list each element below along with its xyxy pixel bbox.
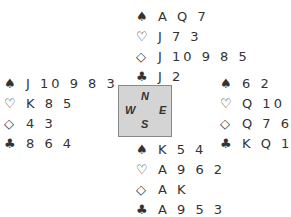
west-spades: ♠J 10 9 8 3 (4, 74, 118, 94)
spade-icon: ♠ (220, 74, 242, 94)
south-clubs: ♣A 9 5 3 (136, 200, 225, 217)
compass-north: N (141, 90, 149, 102)
south-spades: ♠K 5 4 (136, 140, 225, 160)
south-hand: ♠K 5 4 ♡A 9 6 2 ◇A K ♣A 9 5 3 (136, 140, 225, 217)
heart-icon: ♡ (4, 94, 26, 114)
compass-west: W (125, 104, 135, 116)
compass-box: N W E S (118, 85, 172, 137)
north-hearts: ♡J 7 3 (136, 27, 250, 47)
diamond-icon: ◇ (4, 114, 26, 134)
west-clubs: ♣8 6 4 (4, 134, 118, 154)
spade-icon: ♠ (136, 7, 158, 27)
spade-icon: ♠ (4, 74, 26, 94)
compass-east: E (159, 104, 166, 116)
north-diamonds: ◇J 10 9 8 5 (136, 47, 250, 67)
west-hearts: ♡K 8 5 (4, 94, 118, 114)
diamond-icon: ◇ (220, 114, 242, 134)
east-hand: ♠6 2 ♡Q 10 4 ◇Q 7 6 2 ♣K Q 10 7 (220, 74, 291, 154)
east-clubs: ♣K Q 10 7 (220, 134, 291, 154)
west-diamonds: ◇4 3 (4, 114, 118, 134)
east-spades: ♠6 2 (220, 74, 291, 94)
west-hand: ♠J 10 9 8 3 ♡K 8 5 ◇4 3 ♣8 6 4 (4, 74, 118, 154)
heart-icon: ♡ (136, 27, 158, 47)
diamond-icon: ◇ (136, 47, 158, 67)
heart-icon: ♡ (220, 94, 242, 114)
diamond-icon: ◇ (136, 180, 158, 200)
club-icon: ♣ (4, 134, 26, 154)
south-diamonds: ◇A K (136, 180, 225, 200)
north-spades: ♠A Q 7 (136, 7, 250, 27)
heart-icon: ♡ (136, 160, 158, 180)
spade-icon: ♠ (136, 140, 158, 160)
compass-south: S (141, 118, 148, 130)
east-diamonds: ◇Q 7 6 2 (220, 114, 291, 134)
club-icon: ♣ (136, 200, 158, 217)
east-hearts: ♡Q 10 4 (220, 94, 291, 114)
south-hearts: ♡A 9 6 2 (136, 160, 225, 180)
club-icon: ♣ (136, 67, 158, 87)
